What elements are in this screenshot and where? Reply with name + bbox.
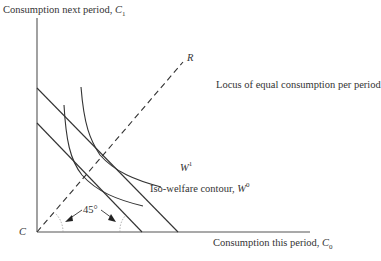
w1-label: W1	[180, 160, 192, 173]
x-axis-label: Consumption this period, C0	[213, 237, 333, 251]
y-axis-label-text: Consumption next period,	[3, 4, 115, 15]
y-axis-label: Consumption next period, C1	[3, 4, 126, 18]
angle-label: 45°	[83, 204, 98, 215]
angle-arc-left	[55, 213, 63, 232]
x-axis-subscript: 0	[329, 243, 333, 251]
origin-label: C	[19, 226, 26, 237]
y-axis-symbol: C	[115, 4, 122, 15]
ray-description: Locus of equal consumption per period	[216, 79, 381, 90]
lower-budget-line	[37, 123, 142, 232]
upper-budget-line	[37, 88, 178, 232]
w0-symbol: W	[237, 183, 246, 194]
y-axis-subscript: 1	[122, 10, 126, 18]
equal-consumption-ray	[37, 62, 183, 232]
w1-superscript: 1	[189, 160, 193, 168]
iso-welfare-text: Iso-welfare contour,	[150, 183, 237, 194]
angle-arc-right	[120, 215, 126, 232]
x-axis-label-text: Consumption this period,	[213, 237, 322, 248]
ray-label: R	[187, 52, 193, 63]
arrowhead-right-icon	[108, 214, 116, 222]
arrowhead-left-icon	[65, 215, 73, 222]
w0-superscript: 0	[246, 181, 250, 189]
w1-symbol: W	[180, 162, 189, 173]
iso-welfare-label: Iso-welfare contour, W0	[150, 181, 250, 194]
